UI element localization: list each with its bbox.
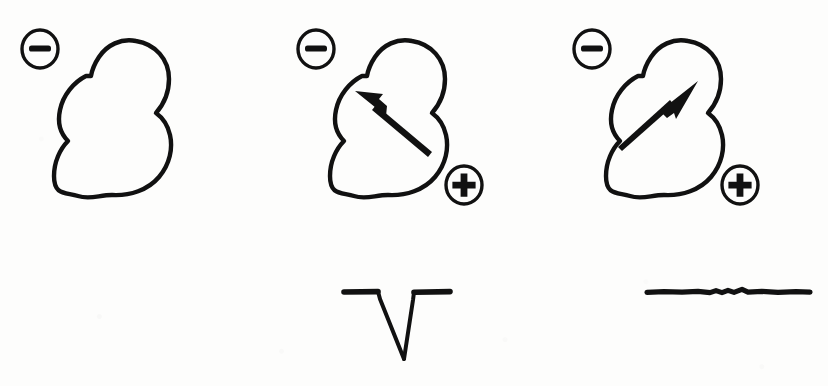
panel-2-drawing (276, 0, 552, 386)
cardiac-cell-blob (54, 40, 171, 197)
panel-1-drawing (0, 0, 276, 386)
plus-icon (728, 173, 751, 196)
positive-electrode (722, 166, 758, 204)
arrow-head (355, 91, 387, 116)
electrogram-downstroke (378, 292, 404, 359)
dipole-vector-arrow (618, 81, 698, 151)
electrogram-trace (344, 292, 450, 359)
panel-1: − + Tall upright (positive) deflection V… (0, 0, 276, 386)
electrogram-isoelectric-line (647, 289, 810, 292)
electrogram-baseline-right (414, 292, 450, 293)
panel-3-drawing (552, 0, 828, 386)
negative-electrode (574, 30, 610, 68)
negative-electrode (298, 30, 334, 68)
figure-root: − + Tall upright (positive) deflection V… (0, 0, 828, 386)
arrow-head (660, 81, 698, 119)
dipole-vector-arrow (355, 91, 432, 157)
positive-electrode (446, 166, 482, 204)
minus-icon (29, 46, 51, 52)
electrogram-trace (647, 289, 810, 292)
panel-2: Deep downward (negative) deflection Vect… (276, 0, 552, 386)
minus-icon (305, 46, 327, 52)
electrogram-upstroke (404, 292, 414, 359)
panel-3: Flat isoelectric line, no net deflection… (552, 0, 828, 386)
cardiac-cell-blob (606, 40, 723, 197)
negative-electrode (22, 30, 58, 68)
plus-icon (452, 173, 475, 196)
minus-icon (581, 46, 603, 52)
arrow-shaft (372, 105, 432, 157)
